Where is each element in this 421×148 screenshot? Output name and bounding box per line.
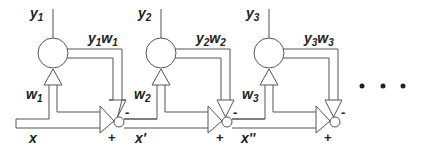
input-pipe-3 bbox=[232, 119, 316, 128]
input-pipe-2 bbox=[124, 119, 208, 128]
plus-sign-2: + bbox=[216, 130, 224, 145]
weight-label-1: w1 bbox=[26, 86, 43, 104]
output-label-2: y2 bbox=[137, 5, 152, 23]
stage-3: y3 y3w3 w3 x'' + - bbox=[232, 5, 345, 146]
feedback-arrowhead-1 bbox=[109, 100, 126, 117]
plus-sign-3: + bbox=[324, 130, 332, 145]
minus-sign-1: - bbox=[125, 105, 129, 120]
summing-junction-1 bbox=[114, 117, 124, 127]
neuron-unit-1 bbox=[38, 38, 68, 68]
feedback-label-1: y1w1 bbox=[87, 30, 118, 48]
weight-arrowhead-1 bbox=[44, 69, 62, 85]
plus-sign-1: + bbox=[108, 130, 116, 145]
feedback-pipe-1 bbox=[67, 49, 122, 100]
stage-1: y1 y1w1 w1 x + - bbox=[16, 5, 129, 146]
feedback-arrowhead-3 bbox=[325, 100, 342, 117]
output-label-1: y1 bbox=[29, 5, 44, 23]
weight-pipe-3 bbox=[265, 85, 316, 119]
feedback-label-3: y3w3 bbox=[303, 30, 334, 48]
neuron-unit-3 bbox=[254, 38, 284, 68]
minus-sign-3: - bbox=[341, 105, 345, 120]
input-arrowhead-2 bbox=[208, 106, 222, 133]
minus-sign-2: - bbox=[233, 105, 237, 120]
output-label-3: y3 bbox=[245, 5, 260, 23]
neural-cascade-diagram: y1 y1w1 w1 x + - y2 y2w2 w2 x' + - bbox=[0, 0, 421, 148]
weight-arrowhead-3 bbox=[260, 69, 278, 85]
weight-label-2: w2 bbox=[134, 86, 151, 104]
feedback-label-2: y2w2 bbox=[195, 30, 226, 48]
feedback-arrowhead-2 bbox=[217, 100, 234, 117]
input-arrowhead-1 bbox=[100, 106, 114, 133]
input-label-2: x' bbox=[134, 130, 147, 146]
summing-junction-2 bbox=[222, 117, 232, 127]
input-arrowhead-3 bbox=[316, 106, 330, 133]
feedback-pipe-2 bbox=[175, 49, 230, 100]
neuron-unit-2 bbox=[146, 38, 176, 68]
feedback-pipe-3 bbox=[283, 49, 338, 100]
weight-arrowhead-2 bbox=[152, 69, 170, 85]
input-label-1: x bbox=[28, 130, 38, 146]
input-label-3: x'' bbox=[240, 130, 256, 146]
stage-2: y2 y2w2 w2 x' + - bbox=[124, 5, 237, 146]
input-pipe-1 bbox=[16, 119, 100, 128]
ellipsis-dots-icon bbox=[360, 84, 406, 89]
summing-junction-3 bbox=[330, 117, 340, 127]
weight-label-3: w3 bbox=[242, 86, 259, 104]
weight-pipe-1 bbox=[49, 85, 100, 119]
weight-pipe-2 bbox=[157, 85, 208, 119]
